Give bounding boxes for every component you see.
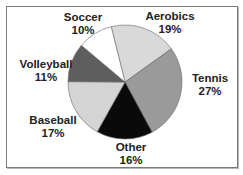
label-baseball-name: Baseball — [28, 114, 78, 127]
label-soccer-pct: 10% — [60, 24, 106, 37]
label-baseball-pct: 17% — [28, 127, 78, 140]
label-aerobics: Aerobics 19% — [140, 10, 200, 36]
label-other-name: Other — [108, 141, 154, 154]
label-tennis: Tennis 27% — [186, 72, 234, 98]
label-tennis-pct: 27% — [186, 85, 234, 98]
label-soccer-name: Soccer — [60, 11, 106, 24]
label-other: Other 16% — [108, 141, 154, 167]
label-tennis-name: Tennis — [186, 72, 234, 85]
label-aerobics-name: Aerobics — [140, 10, 200, 23]
label-soccer: Soccer 10% — [60, 11, 106, 37]
label-volleyball-pct: 11% — [18, 71, 74, 84]
label-aerobics-pct: 19% — [140, 23, 200, 36]
label-other-pct: 16% — [108, 154, 154, 167]
label-volleyball-name: Volleyball — [18, 58, 74, 71]
label-baseball: Baseball 17% — [28, 114, 78, 140]
label-volleyball: Volleyball 11% — [18, 58, 74, 84]
